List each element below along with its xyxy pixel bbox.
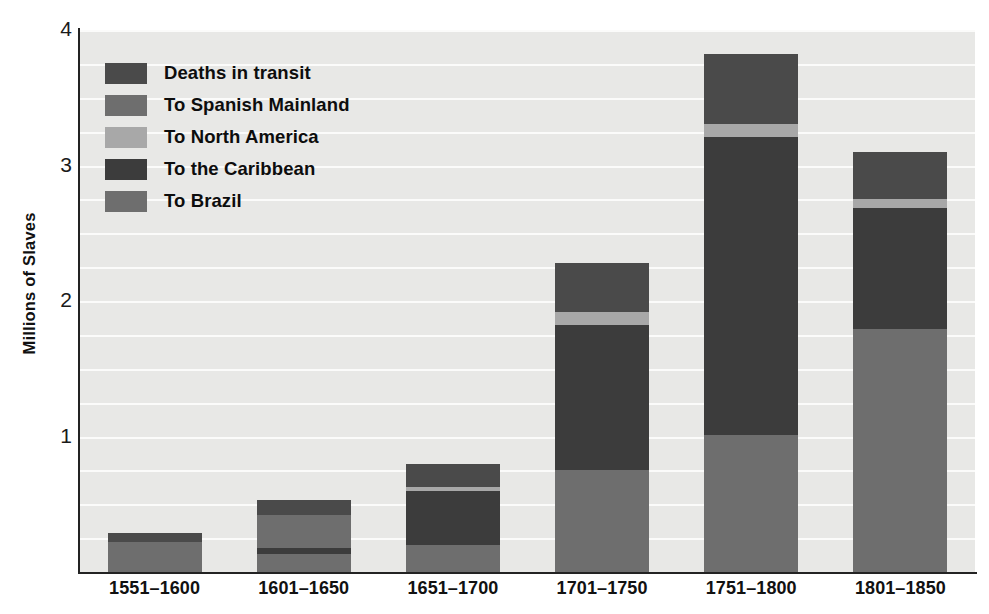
gridline	[80, 470, 975, 472]
bar-segment-to-north-america	[853, 199, 947, 207]
legend-item-to-the-caribbean[interactable]: To the Caribbean	[105, 154, 350, 184]
bar-group[interactable]	[555, 30, 649, 572]
gridline	[80, 403, 975, 405]
y-axis-tick-labels: 4 3 2 1	[0, 0, 72, 614]
legend-swatch-icon-to-brazil	[105, 191, 147, 212]
bar-group[interactable]	[853, 30, 947, 572]
legend-swatch-icon-to-north-america	[105, 127, 147, 148]
bar-segment-to-spanish-mainland	[257, 515, 351, 548]
bar-segment-to-north-america	[406, 487, 500, 491]
gridline	[80, 335, 975, 337]
legend-label-deaths-in-transit: Deaths in transit	[164, 62, 311, 84]
bar-segment-deaths-in-transit	[406, 464, 500, 487]
x-tick-label-5: 1751–1800	[677, 578, 826, 599]
legend-item-deaths-in-transit[interactable]: Deaths in transit	[105, 58, 350, 88]
bar-segment-to-the-caribbean	[853, 208, 947, 330]
bar-segment-to-brazil	[704, 435, 798, 572]
gridline	[80, 437, 975, 439]
bar-segment-to-the-caribbean	[406, 491, 500, 545]
y-tick-label-2: 2	[10, 288, 72, 312]
legend-swatch-icon-deaths-in-transit	[105, 63, 147, 84]
gridline	[80, 369, 975, 371]
gridline	[80, 301, 975, 303]
x-tick-label-6: 1801–1850	[826, 578, 975, 599]
bar-segment-deaths-in-transit	[555, 263, 649, 312]
legend-item-to-north-america[interactable]: To North America	[105, 122, 350, 152]
y-tick-label-3: 3	[10, 153, 72, 177]
y-tick-label-4: 4	[10, 17, 72, 41]
bar-segment-to-the-caribbean	[555, 325, 649, 470]
gridline	[80, 30, 975, 32]
legend-item-to-brazil[interactable]: To Brazil	[105, 186, 350, 216]
gridline	[80, 233, 975, 235]
bar-segment-to-spanish-mainland	[108, 542, 202, 572]
legend-label-to-the-caribbean: To the Caribbean	[164, 158, 315, 180]
gridline	[80, 504, 975, 506]
gridline	[80, 267, 975, 269]
x-tick-label-3: 1651–1700	[378, 578, 527, 599]
bar-segment-deaths-in-transit	[853, 152, 947, 199]
bar-segment-to-brazil	[257, 554, 351, 572]
bar-segment-deaths-in-transit	[704, 54, 798, 123]
bar-segment-to-the-caribbean	[257, 548, 351, 555]
bar-segment-to-north-america	[555, 312, 649, 326]
bar-segment-to-north-america	[704, 124, 798, 138]
legend-label-to-north-america: To North America	[164, 126, 319, 148]
bar-group[interactable]	[406, 30, 500, 572]
legend-label-to-spanish-mainland: To Spanish Mainland	[164, 94, 350, 116]
legend-swatch-icon-to-spanish-mainland	[105, 95, 147, 116]
gridline	[80, 538, 975, 540]
x-tick-label-2: 1601–1650	[229, 578, 378, 599]
bar-segment-to-brazil	[406, 545, 500, 572]
legend-item-to-spanish-mainland[interactable]: To Spanish Mainland	[105, 90, 350, 120]
bar-segment-to-brazil	[853, 329, 947, 572]
bar-segment-to-brazil	[555, 470, 649, 572]
x-tick-label-1: 1551–1600	[80, 578, 229, 599]
bar-segment-deaths-in-transit	[108, 533, 202, 542]
bar-segment-deaths-in-transit	[257, 500, 351, 515]
x-axis-line	[78, 572, 977, 574]
legend: Deaths in transit To Spanish Mainland To…	[105, 58, 350, 218]
bar-segment-to-the-caribbean	[704, 137, 798, 435]
plot-area: Deaths in transit To Spanish Mainland To…	[80, 30, 975, 572]
x-tick-label-4: 1701–1750	[528, 578, 677, 599]
bar-group[interactable]	[704, 30, 798, 572]
y-tick-label-1: 1	[10, 424, 72, 448]
stacked-bar-chart: Millions of Slaves 4 3 2 1 Deaths in tra…	[0, 0, 989, 614]
legend-swatch-icon-to-the-caribbean	[105, 159, 147, 180]
legend-label-to-brazil: To Brazil	[164, 190, 242, 212]
